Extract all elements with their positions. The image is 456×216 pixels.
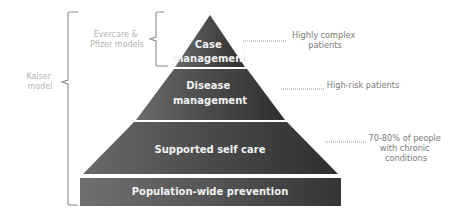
tier-population-wide-prevention-label: Population-wide prevention [132,186,289,197]
evercare-pfizer-bracket [150,12,168,66]
tier-disease-management-line2: management [173,95,247,106]
kaiser-model-bracket [62,12,78,205]
kaiser-model-label-line1: Kaiser [26,72,51,81]
pyramid-diagram: Kaiser model Evercare & Pfizer models Ca… [0,0,456,216]
annotation-chronic-conditions: 70-80% of people with chronic conditions [368,133,443,163]
kaiser-model-label-line2: model [28,82,53,91]
evercare-pfizer-label-line2: Pfizer models [90,40,144,49]
annotation-highly-complex-line1: Highly complex [292,30,355,40]
tier-case-management-line1: Case [195,39,222,50]
tier-supported-self-care-label: Supported self care [154,144,265,155]
tier-case-management-line2: management [173,53,247,64]
annotation-chronic-line1: 70-80% of people [368,133,440,143]
kaiser-model-label: Kaiser model [26,72,53,91]
annotation-highly-complex: Highly complex patients [292,30,358,50]
annotation-highly-complex-line2: patients [308,40,341,50]
evercare-pfizer-label-line1: Evercare & [94,30,138,39]
annotation-high-risk: High-risk patients [327,80,399,90]
tier-disease-management-line1: Disease [186,80,230,91]
annotation-chronic-line3: conditions [385,153,427,163]
evercare-pfizer-label: Evercare & Pfizer models [90,30,144,49]
annotation-chronic-line2: with chronic [380,143,430,153]
